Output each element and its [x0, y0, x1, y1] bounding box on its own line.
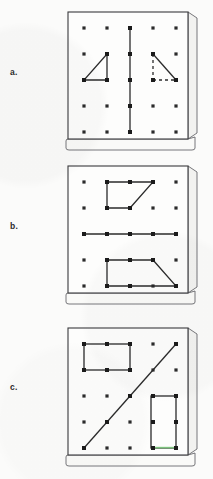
peg-dot: [105, 130, 108, 133]
geoboard-b: [62, 162, 210, 307]
peg-dot: [105, 26, 108, 29]
board-face: [68, 12, 188, 139]
peg-dot: [151, 26, 154, 29]
peg-dot: [128, 446, 131, 449]
geoboard-a: [62, 8, 210, 153]
peg-dot: [82, 26, 85, 29]
peg-dot: [174, 52, 177, 55]
peg-dot: [105, 104, 108, 107]
peg-dot: [82, 420, 85, 423]
peg-dot: [174, 206, 177, 209]
geoboard-c-svg: [62, 324, 210, 474]
peg-dot: [174, 258, 177, 261]
peg-dot: [151, 104, 154, 107]
peg-dot: [82, 130, 85, 133]
peg-dot: [128, 420, 131, 423]
peg-dot: [151, 130, 154, 133]
peg-dot: [105, 446, 108, 449]
panel-c-label: c.: [10, 383, 18, 392]
peg-dot: [82, 206, 85, 209]
peg-dot: [174, 180, 177, 183]
peg-dot: [151, 342, 154, 345]
board-face: [68, 166, 188, 293]
peg-dot: [174, 26, 177, 29]
panel-b-label: b.: [10, 222, 18, 231]
peg-dot: [151, 206, 154, 209]
board-right-side: [188, 166, 197, 293]
peg-dot: [82, 258, 85, 261]
board-face: [68, 328, 188, 455]
panel-a: a.: [0, 0, 213, 155]
peg-dot: [82, 52, 85, 55]
panel-b: b.: [0, 158, 213, 313]
geoboard-a-svg: [62, 8, 210, 153]
geoboard-b-svg: [62, 162, 210, 307]
peg-dot: [82, 180, 85, 183]
panel-a-label: a.: [10, 68, 18, 77]
peg-dot: [82, 104, 85, 107]
peg-dot: [105, 394, 108, 397]
peg-dot: [174, 368, 177, 371]
worksheet-page: a.: [0, 0, 213, 479]
peg-dot: [82, 284, 85, 287]
panel-c: c.: [0, 318, 213, 479]
peg-dot: [82, 394, 85, 397]
peg-dot: [174, 130, 177, 133]
geoboard-c: [62, 324, 210, 474]
board-right-side: [188, 328, 197, 455]
peg-dot: [174, 104, 177, 107]
board-right-side: [188, 12, 197, 139]
